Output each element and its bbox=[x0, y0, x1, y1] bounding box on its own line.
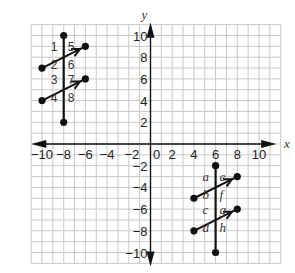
y-tick-label: −4 bbox=[133, 180, 148, 195]
angle-label: 3 bbox=[51, 73, 58, 87]
x-tick-label: −4 bbox=[100, 147, 115, 162]
angle-label: 7 bbox=[68, 73, 75, 87]
angle-label: c bbox=[203, 202, 209, 217]
y-tick-label: 2 bbox=[140, 115, 147, 130]
coordinate-plane: xy −10−8−6−4−20246810108642−2−4−6−8−10 1… bbox=[0, 0, 295, 273]
angle-label: 5 bbox=[68, 40, 75, 54]
endpoint-dot bbox=[234, 206, 241, 213]
y-tick-label: −6 bbox=[133, 202, 148, 217]
angle-label: d bbox=[203, 220, 210, 235]
endpoint-dot bbox=[60, 119, 67, 126]
angle-label: a bbox=[203, 169, 210, 184]
x-axis-label: x bbox=[283, 136, 290, 151]
x-tick-label: 4 bbox=[190, 147, 197, 162]
y-axis-label: y bbox=[140, 7, 148, 22]
angle-label: f bbox=[220, 187, 226, 202]
endpoint-dot bbox=[38, 64, 45, 71]
endpoint-dot bbox=[190, 195, 197, 202]
y-axis-down-arrow-icon bbox=[147, 251, 155, 266]
y-tick-label: −8 bbox=[133, 224, 148, 239]
y-tick-label: 6 bbox=[140, 72, 147, 87]
angle-label: 6 bbox=[68, 58, 75, 72]
angle-label: b bbox=[203, 187, 210, 202]
x-tick-label: 8 bbox=[234, 147, 241, 162]
x-tick-label: 0 bbox=[153, 147, 160, 162]
angle-label: g bbox=[220, 202, 227, 217]
endpoint-dot bbox=[212, 162, 219, 169]
x-tick-label: 10 bbox=[252, 147, 266, 162]
angle-label: h bbox=[220, 220, 227, 235]
angle-label: 2 bbox=[51, 58, 58, 72]
x-tick-label: −10 bbox=[31, 147, 53, 162]
endpoint-dot bbox=[82, 75, 89, 82]
y-tick-label: 8 bbox=[140, 50, 147, 65]
endpoint-dot bbox=[234, 173, 241, 180]
x-tick-label: 6 bbox=[212, 147, 219, 162]
y-tick-label: −2 bbox=[133, 159, 148, 174]
angle-label: 1 bbox=[51, 40, 58, 54]
y-tick-label: 4 bbox=[140, 94, 147, 109]
y-tick-label: 10 bbox=[133, 29, 147, 44]
y-tick-label: −10 bbox=[125, 246, 147, 261]
endpoint-dot bbox=[190, 227, 197, 234]
x-tick-label: 2 bbox=[169, 147, 176, 162]
endpoint-dot bbox=[60, 32, 67, 39]
endpoint-dot bbox=[38, 97, 45, 104]
endpoint-dot bbox=[82, 43, 89, 50]
angle-label: 4 bbox=[51, 91, 58, 105]
x-tick-label: −6 bbox=[78, 147, 93, 162]
angle-label: 8 bbox=[68, 91, 75, 105]
endpoint-dot bbox=[212, 249, 219, 256]
angle-label: e bbox=[220, 169, 226, 184]
x-tick-label: −8 bbox=[56, 147, 71, 162]
